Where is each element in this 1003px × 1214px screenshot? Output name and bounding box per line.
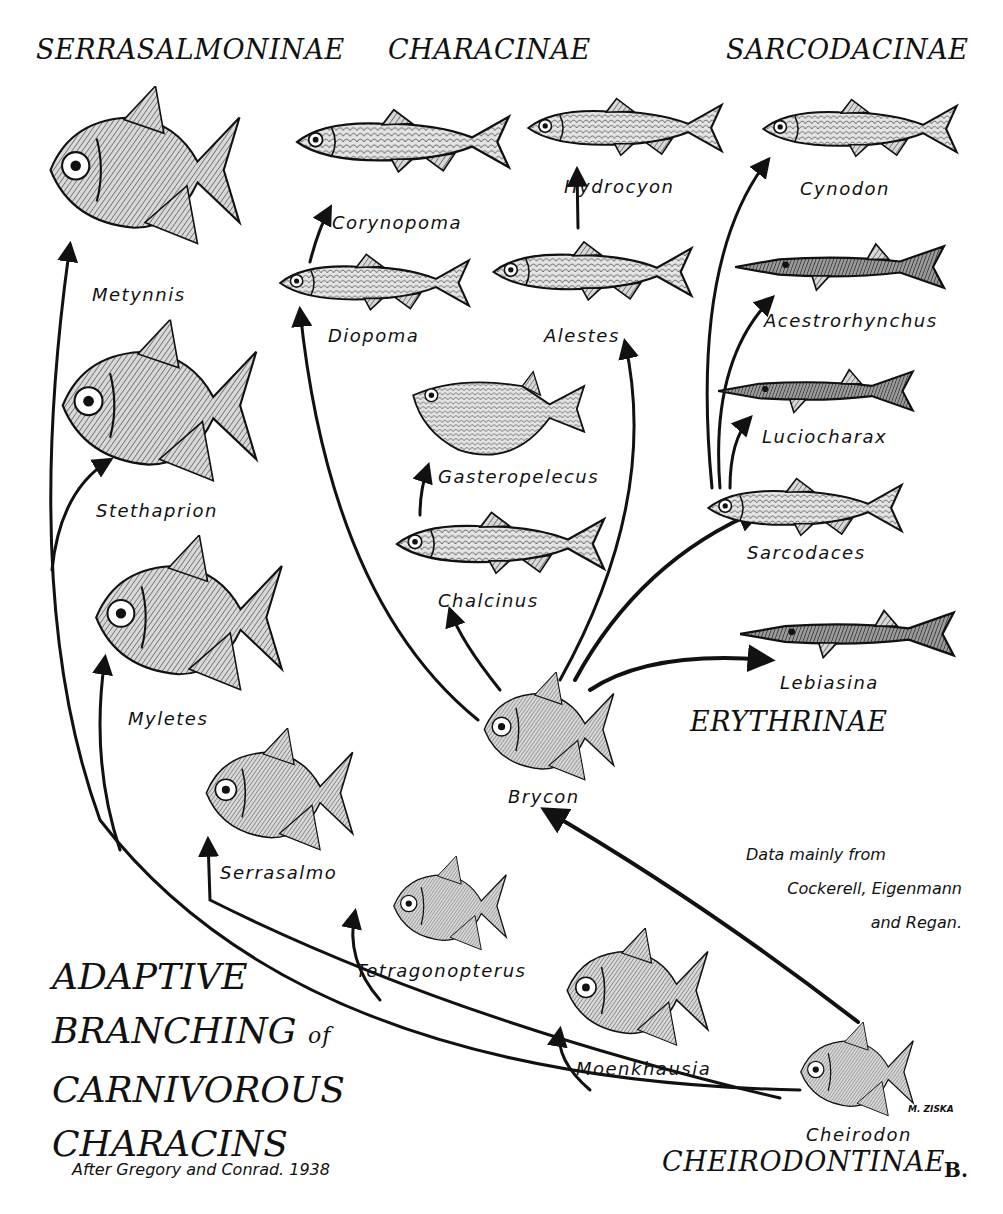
- genus-label-luciocharax: Luciocharax: [762, 426, 887, 447]
- subfamily-cheirodontinae: CHEIRODONTINAE: [662, 1146, 945, 1177]
- title-line-1: ADAPTIVE: [52, 950, 345, 1004]
- plate-mark: B.: [944, 1158, 968, 1182]
- genus-label-cynodon: Cynodon: [800, 178, 890, 199]
- source-note-line-2: Cockerell, Eigenmann: [700, 872, 962, 906]
- fish-lebiasina-icon: [740, 604, 965, 664]
- fish-metynnis-icon: [40, 75, 250, 265]
- genus-label-hydrocyon: Hydrocyon: [564, 176, 675, 197]
- source-note-line-3: and Regan.: [700, 906, 962, 940]
- genus-label-lebiasina: Lebiasina: [780, 672, 879, 693]
- attribution-credit: After Gregory and Conrad. 1938: [72, 1160, 330, 1179]
- genus-label-myletes: Myletes: [128, 708, 208, 729]
- genus-label-corynopoma: Corynopoma: [332, 212, 462, 233]
- fish-gasteropelecus-icon: [390, 368, 600, 468]
- fish-hydrocyon-icon: [520, 92, 730, 164]
- fish-stethaprion-icon: [52, 318, 267, 493]
- genus-label-serrasalmo: Serrasalmo: [220, 862, 337, 883]
- fish-acestrorhynchus-icon: [735, 238, 955, 296]
- fish-chalcinus-icon: [388, 500, 613, 588]
- title-line-3: CARNIVOROUS: [52, 1063, 345, 1117]
- fish-moenkhausia-icon: [530, 928, 745, 1053]
- genus-label-alestes: Alestes: [544, 325, 620, 346]
- fish-myletes-icon: [84, 535, 294, 700]
- genus-label-stethaprion: Stethaprion: [96, 500, 218, 521]
- genus-label-cheirodon: Cheirodon: [806, 1124, 912, 1145]
- fish-alestes-icon: [485, 228, 700, 316]
- title-line-2: BRANCHING of: [52, 1004, 345, 1063]
- diagram-title: ADAPTIVE BRANCHING of CARNIVOROUS CHARAC…: [52, 950, 345, 1171]
- genus-label-metynnis: Metynnis: [92, 284, 186, 305]
- genus-label-sarcodaces: Sarcodaces: [747, 542, 866, 563]
- fish-brycon-icon: [444, 672, 654, 787]
- fish-serrasalmo-icon: [172, 728, 387, 858]
- artist-signature: M. ZISKA: [908, 1104, 954, 1114]
- fish-tetragonopterus-icon: [350, 856, 550, 956]
- genus-label-chalcinus: Chalcinus: [438, 590, 539, 611]
- fish-cynodon-icon: [755, 88, 965, 170]
- subfamily-sarcodacinae: SARCODACINAE: [726, 34, 968, 65]
- fish-luciocharax-icon: [718, 362, 923, 420]
- diagram-canvas: SERRASALMONINAE CHARACINAE SARCODACINAE …: [0, 0, 1003, 1214]
- genus-label-gasteropelecus: Gasteropelecus: [438, 466, 599, 487]
- fish-sarcodaces-icon: [700, 474, 910, 542]
- fish-diopoma-icon: [272, 248, 477, 318]
- subfamily-characinae: CHARACINAE: [388, 34, 591, 65]
- subfamily-serrasalmoninae: SERRASALMONINAE: [36, 34, 345, 65]
- source-note-line-1: Data mainly from: [700, 838, 962, 872]
- genus-label-acestrorhynchus: Acestrorhynchus: [764, 310, 938, 331]
- source-note: Data mainly from Cockerell, Eigenmann an…: [700, 838, 962, 940]
- genus-label-diopoma: Diopoma: [328, 325, 419, 346]
- genus-label-tetragonopterus: Tetragonopterus: [356, 960, 526, 981]
- fish-corynopoma-icon: [288, 92, 518, 192]
- genus-label-brycon: Brycon: [508, 786, 580, 807]
- subfamily-erythrinae: ERYTHRINAE: [690, 706, 887, 737]
- genus-label-moenkhausia: Moenkhausia: [576, 1058, 711, 1079]
